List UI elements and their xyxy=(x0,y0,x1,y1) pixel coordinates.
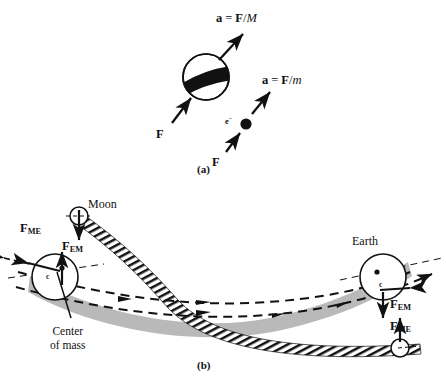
accel-label-electron: a=F/m xyxy=(262,74,301,87)
physics-figure: a=F/M F a=F/m e− F (a) Moon Earth FME FE… xyxy=(0,0,446,380)
force-arrow-sphere xyxy=(172,98,191,123)
figure-canvas xyxy=(0,0,446,380)
accel-arrow-electron xyxy=(252,92,270,114)
electron-label: e− xyxy=(225,116,232,125)
com-marker-left-label: c xyxy=(46,273,49,281)
moon-label: Moon xyxy=(88,198,117,210)
com-line-2: of mass xyxy=(50,340,85,352)
com-marker-right-label: c xyxy=(379,281,382,289)
earth-circle-left xyxy=(32,254,78,300)
force-em-label-right: FEM xyxy=(390,298,411,311)
accel-arrow-sphere xyxy=(219,34,243,60)
panel-b-caption: (b) xyxy=(197,360,210,371)
force-me-label-right: FME xyxy=(390,320,411,333)
electron-icon xyxy=(240,118,251,129)
accel-label-sphere: a=F/M xyxy=(216,12,257,25)
force-me-label-left: FME xyxy=(20,222,41,235)
force-arrow-electron xyxy=(226,133,240,152)
force-label-electron: F xyxy=(212,156,220,169)
com-line-1: Center xyxy=(50,326,85,338)
panel-a-caption: (a) xyxy=(197,164,210,175)
force-label-sphere: F xyxy=(156,128,164,141)
center-of-mass-label: Center of mass xyxy=(50,326,85,351)
panel-a-graphics xyxy=(172,34,270,152)
earth-center-dot-right xyxy=(374,269,379,274)
large-mass-sphere-icon xyxy=(181,54,232,100)
earth-label: Earth xyxy=(352,235,378,247)
force-em-label-left: FEM xyxy=(62,240,83,253)
earth-path-band xyxy=(28,262,412,337)
velocity-dash-left xyxy=(4,258,30,264)
